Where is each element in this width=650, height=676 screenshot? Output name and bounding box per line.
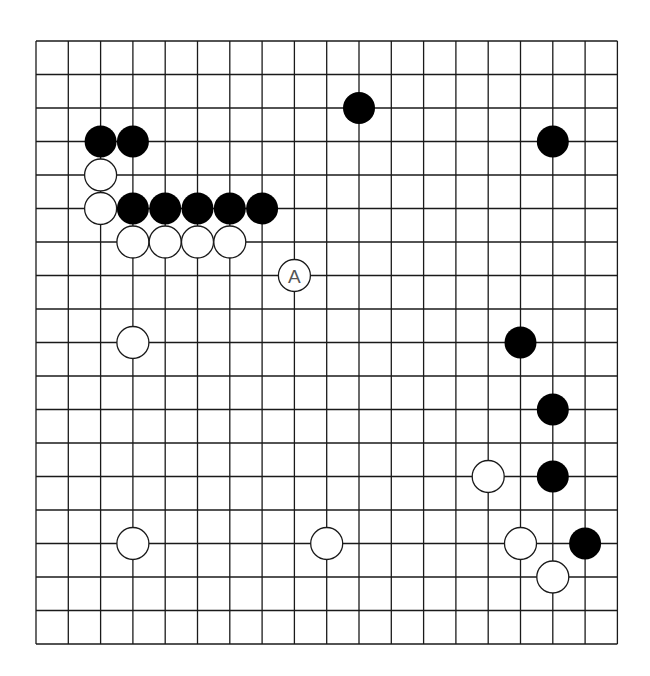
black-stone-circle [117, 126, 149, 158]
black-stone-circle [117, 193, 149, 225]
white-stone [85, 159, 117, 191]
white-stone-circle [537, 561, 569, 593]
black-stone-circle [246, 193, 278, 225]
black-stone [149, 193, 181, 225]
black-stone [537, 394, 569, 426]
white-stone [149, 226, 181, 258]
white-stone [117, 327, 149, 359]
white-stone [214, 226, 246, 258]
black-stone-circle [343, 92, 375, 124]
black-stone [85, 126, 117, 158]
white-stone-circle [85, 193, 117, 225]
black-stone [569, 528, 601, 560]
go-board[interactable]: A [0, 0, 650, 676]
black-stone-circle [537, 394, 569, 426]
stone-label-a: A [288, 266, 301, 287]
black-stone [246, 193, 278, 225]
black-stone [505, 327, 537, 359]
white-stone [182, 226, 214, 258]
black-stone [537, 461, 569, 493]
black-stone-circle [569, 528, 601, 560]
white-stone-circle [85, 159, 117, 191]
black-stone-circle [85, 126, 117, 158]
white-stone-circle [117, 327, 149, 359]
black-stone-circle [182, 193, 214, 225]
white-stone-circle [182, 226, 214, 258]
white-stone [505, 528, 537, 560]
white-stone-circle [505, 528, 537, 560]
black-stone [214, 193, 246, 225]
white-stone-circle [117, 528, 149, 560]
white-stone [472, 461, 504, 493]
black-stone [343, 92, 375, 124]
white-stone [311, 528, 343, 560]
white-stone [85, 193, 117, 225]
black-stone [117, 126, 149, 158]
white-stone-circle [149, 226, 181, 258]
black-stone-circle [214, 193, 246, 225]
black-stone-circle [537, 126, 569, 158]
white-stone [537, 561, 569, 593]
white-stone [117, 528, 149, 560]
black-stone [182, 193, 214, 225]
white-stone-circle [117, 226, 149, 258]
black-stone-circle [505, 327, 537, 359]
white-stone-circle [472, 461, 504, 493]
black-stone [537, 126, 569, 158]
black-stone-circle [537, 461, 569, 493]
black-stone [117, 193, 149, 225]
labeled-white-stone: A [278, 260, 310, 292]
black-stone-circle [149, 193, 181, 225]
white-stone-circle [311, 528, 343, 560]
white-stone-circle [214, 226, 246, 258]
white-stone [117, 226, 149, 258]
